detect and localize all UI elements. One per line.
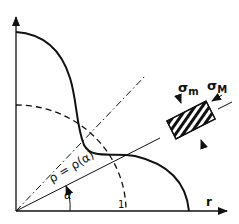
sigma-M-arrow — [212, 95, 222, 101]
tick-label-1: 1 — [118, 199, 124, 210]
polar-stress-diagram: σm σM ρ = ρ(α) α 1 r — [0, 0, 239, 224]
sigma-m-arrow — [178, 95, 181, 103]
sigma-m-label: σm — [178, 80, 199, 97]
alpha-label: α — [64, 188, 72, 202]
boundary-curve — [16, 32, 189, 211]
stress-element — [167, 101, 215, 139]
sigma-m-arrow-2 — [201, 140, 204, 148]
sigma-M-label: σM — [207, 78, 227, 95]
rho-label: ρ = ρ(α) — [46, 148, 96, 186]
radial-line-ext — [218, 102, 232, 109]
dash-dot-diagonal — [16, 75, 146, 211]
x-axis-label: r — [206, 195, 212, 209]
